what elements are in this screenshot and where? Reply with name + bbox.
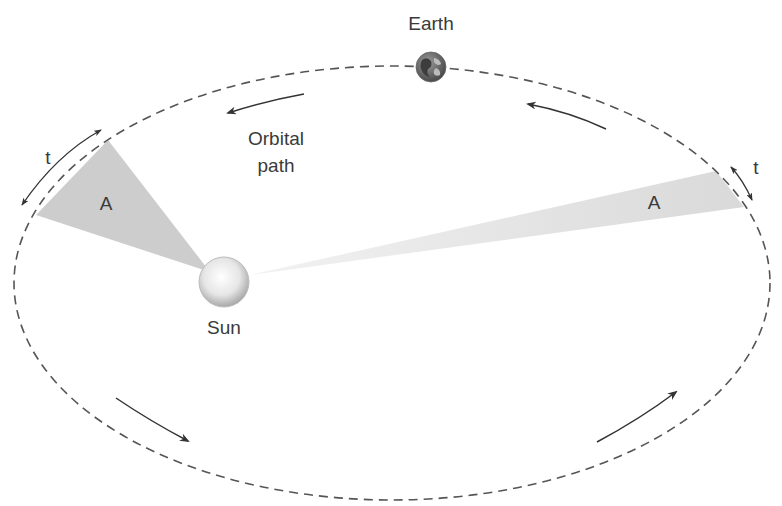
earth-label: Earth xyxy=(408,13,453,34)
time-label-right: t xyxy=(753,157,759,178)
orbital-path-label-line1: Orbital xyxy=(248,128,304,149)
area-sector-right xyxy=(250,171,744,275)
time-label-left: t xyxy=(45,147,51,168)
direction-arrow-icon xyxy=(228,94,304,113)
kepler-diagram: Earth Sun Orbital path A A t t xyxy=(0,0,782,506)
area-sector-left xyxy=(36,140,210,272)
area-label-right: A xyxy=(648,192,661,213)
earth-globe-icon xyxy=(416,52,446,82)
sun-sphere-icon xyxy=(199,257,249,307)
direction-arrow-icon xyxy=(116,398,188,441)
orbital-path-label-line2: path xyxy=(258,155,295,176)
direction-arrow-icon xyxy=(597,392,676,442)
direction-arrow-icon xyxy=(528,104,606,129)
sun-label: Sun xyxy=(207,317,241,338)
area-label-left: A xyxy=(100,193,113,214)
orbital-path xyxy=(14,66,770,500)
